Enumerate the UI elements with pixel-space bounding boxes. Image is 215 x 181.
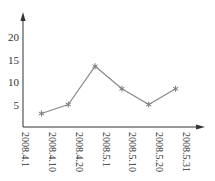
y-tick-label: 15	[8, 54, 20, 66]
y-tick-label: 20	[8, 31, 20, 43]
asterisk-marker-icon	[173, 86, 178, 92]
y-tick-label: 5	[14, 99, 20, 111]
x-tick-label: 2008.5.20	[154, 132, 165, 172]
x-axis-arrow-icon	[196, 125, 205, 130]
line-chart: 5101520 2008.4.12008.4.102008.4.202008.5…	[0, 0, 215, 181]
data-markers	[39, 63, 178, 116]
x-tick-label: 2008.4.1	[20, 132, 31, 167]
x-tick-label: 2008.5.10	[127, 132, 138, 172]
asterisk-marker-icon	[146, 102, 151, 108]
x-tick-label: 2008.5.31	[181, 132, 192, 172]
x-tick-label: 2008.4.20	[74, 132, 85, 172]
y-axis-arrow-icon	[21, 12, 26, 21]
x-tick-labels: 2008.4.12008.4.102008.4.202008.5.12008.5…	[20, 132, 192, 172]
x-tick-label: 2008.5.1	[101, 132, 112, 167]
data-line	[41, 66, 175, 113]
x-tick-label: 2008.4.10	[47, 132, 58, 172]
y-tick-label: 10	[8, 76, 20, 88]
y-tick-labels: 5101520	[8, 31, 20, 111]
